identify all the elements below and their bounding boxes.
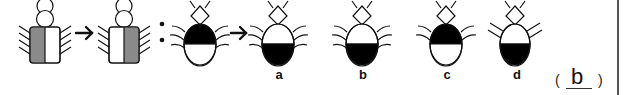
option-b-label: b — [353, 67, 373, 82]
option-a-bug-icon — [248, 1, 308, 66]
right-border-line — [617, 0, 619, 95]
option-c-label: c — [437, 67, 457, 82]
figure-2-bug-icon — [98, 0, 150, 63]
option-b-bug-icon — [332, 1, 392, 66]
arrow-right-icon — [231, 27, 246, 39]
puzzle-figure: a b c d ( b ) — [0, 0, 624, 95]
option-a-label: a — [269, 67, 289, 82]
answer-open-paren: ( — [555, 72, 560, 88]
option-d-bug-icon — [488, 1, 542, 66]
figure-3-bug-icon — [170, 1, 230, 66]
option-c-bug-icon — [416, 1, 476, 66]
colon-separator — [160, 22, 165, 43]
arrow-right-icon — [76, 27, 92, 39]
answer-close-paren: ) — [598, 72, 603, 88]
answer-value: b — [571, 64, 583, 90]
figure-1-bug-icon — [19, 0, 71, 63]
answer-blank-line — [566, 88, 592, 89]
puzzle-svg — [0, 0, 624, 95]
option-d-label: d — [507, 67, 527, 82]
